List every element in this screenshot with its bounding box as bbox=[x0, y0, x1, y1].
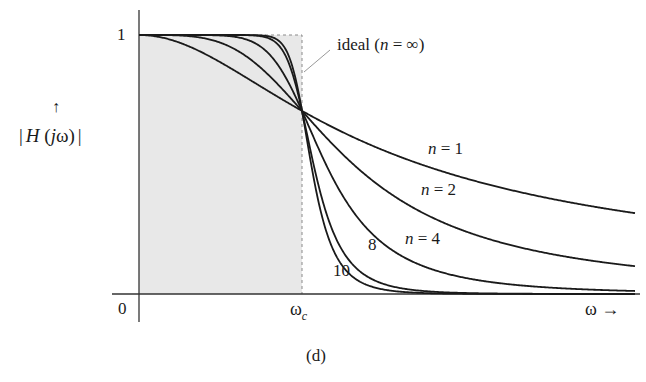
y-axis-H: H bbox=[26, 125, 40, 146]
y-axis-arrow: ↑ bbox=[52, 99, 60, 115]
ideal-label: ideal (n = ∞) bbox=[337, 36, 424, 53]
n1-var: n bbox=[428, 139, 437, 158]
n2-var: n bbox=[421, 180, 430, 199]
series-label-n10: 10 bbox=[333, 262, 350, 279]
abs-bar-left: | bbox=[19, 125, 23, 146]
ideal-passband-shade bbox=[139, 35, 302, 294]
ideal-label-text: ideal ( bbox=[337, 35, 380, 54]
abs-bar-right: | bbox=[78, 125, 82, 146]
origin-label: 0 bbox=[118, 300, 127, 317]
series-label-n2: n = 2 bbox=[421, 181, 456, 198]
omega-c-main: ω bbox=[290, 299, 302, 319]
y-axis-omega: ω) bbox=[56, 125, 75, 146]
y-axis-label: |H (jω)| bbox=[19, 126, 82, 145]
x-axis-label: ω → bbox=[585, 300, 619, 318]
y-axis-paren: ( bbox=[40, 125, 51, 146]
omega-c-subscript: c bbox=[302, 309, 307, 323]
x-tick-omega-c: ωc bbox=[290, 300, 307, 318]
butterworth-response-plot bbox=[0, 0, 646, 382]
ideal-leader-line bbox=[304, 50, 330, 72]
series-label-n4: n = 4 bbox=[405, 230, 440, 247]
ideal-label-infinity: = ∞) bbox=[388, 35, 424, 54]
n2-value: = 2 bbox=[430, 180, 457, 199]
series-label-n8: 8 bbox=[368, 236, 377, 253]
n4-var: n bbox=[405, 229, 414, 248]
series-label-n1: n = 1 bbox=[428, 140, 463, 157]
figure-caption: (d) bbox=[306, 347, 326, 364]
y-tick-one: 1 bbox=[117, 26, 126, 43]
n4-value: = 4 bbox=[414, 229, 441, 248]
n1-value: = 1 bbox=[437, 139, 464, 158]
